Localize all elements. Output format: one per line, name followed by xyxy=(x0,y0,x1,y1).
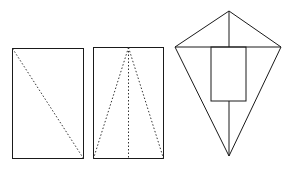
diagram-canvas xyxy=(0,0,293,169)
fold-line xyxy=(129,48,164,159)
rectangle-with-diagonal xyxy=(13,49,84,159)
rectangle-with-fold-lines xyxy=(94,48,164,159)
rectangle-outline xyxy=(13,49,84,159)
rectangle-outline xyxy=(94,48,164,159)
kite-inner-rectangle xyxy=(211,47,246,101)
kite-outline xyxy=(175,11,281,156)
fold-line xyxy=(13,49,84,159)
fold-line xyxy=(94,48,129,159)
kite xyxy=(175,11,281,156)
